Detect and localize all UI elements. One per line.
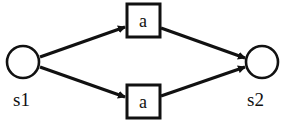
place-s1 [7, 46, 39, 78]
place-s1-label: s1 [13, 90, 30, 109]
petri-net-diagram: a a s1 s2 [0, 0, 282, 120]
arc-bottom-a-to-s2 [161, 67, 245, 96]
transition-top-label: a [126, 12, 160, 30]
transition-bottom-label: a [126, 93, 160, 111]
arc-s1-to-top-a [40, 27, 125, 57]
arc-s1-to-bottom-a [40, 67, 125, 97]
place-s2-label: s2 [247, 90, 264, 109]
arc-top-a-to-s2 [161, 28, 245, 58]
place-s2 [246, 46, 278, 78]
